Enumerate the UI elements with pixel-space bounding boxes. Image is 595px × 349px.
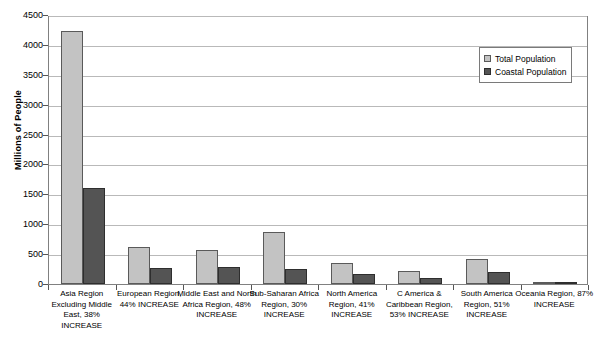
y-axis-tick-label: 1000 xyxy=(3,220,43,229)
legend-swatch-icon xyxy=(484,55,491,62)
y-axis-tick-label: 3500 xyxy=(3,71,43,80)
bar-group xyxy=(117,17,185,284)
bar-group xyxy=(319,17,387,284)
bar-coastal-population xyxy=(555,282,577,284)
legend-item-label: Total Population xyxy=(495,54,556,64)
y-axis-tick-label: 4000 xyxy=(3,41,43,50)
bar-group xyxy=(252,17,320,284)
y-axis-tick-label: 3000 xyxy=(3,101,43,110)
bar-coastal-population xyxy=(218,267,240,284)
bar-total-population xyxy=(466,259,488,284)
bar-coastal-population xyxy=(150,268,172,284)
bar-total-population xyxy=(196,250,218,284)
y-axis-tick-label: 500 xyxy=(3,250,43,259)
bar-coastal-population xyxy=(488,272,510,284)
bar-group xyxy=(387,17,455,284)
x-axis-category-label: Oceania Region, 87% INCREASE xyxy=(515,289,595,310)
legend-item: Total Population xyxy=(484,52,566,65)
bar-total-population xyxy=(263,232,285,284)
bar-coastal-population xyxy=(420,278,442,284)
bar-total-population xyxy=(331,263,353,284)
bar-total-population xyxy=(533,282,555,284)
bar-coastal-population xyxy=(353,274,375,284)
bar-group xyxy=(49,17,117,284)
chart-legend: Total PopulationCoastal Population xyxy=(479,47,572,83)
y-axis-tick-label: 1500 xyxy=(3,190,43,199)
bar-total-population xyxy=(398,271,420,284)
legend-item: Coastal Population xyxy=(484,65,566,78)
y-axis-tick-label: 0 xyxy=(3,280,43,289)
legend-swatch-icon xyxy=(484,68,491,75)
bar-group xyxy=(184,17,252,284)
bar-total-population xyxy=(61,31,83,284)
y-axis-tick-label: 2000 xyxy=(3,160,43,169)
bar-total-population xyxy=(128,247,150,284)
y-axis-tick-label: 2500 xyxy=(3,131,43,140)
bar-coastal-population xyxy=(83,188,105,284)
bar-chart: Millions of People 050010001500200025003… xyxy=(0,0,595,349)
legend-item-label: Coastal Population xyxy=(495,67,566,77)
bar-coastal-population xyxy=(285,269,307,284)
y-axis-tick-label: 4500 xyxy=(3,11,43,20)
